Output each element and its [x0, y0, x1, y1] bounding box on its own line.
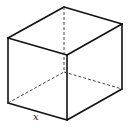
- edge-top-back-left: [8, 7, 64, 38]
- edge-top-back-right: [64, 7, 122, 24]
- edge-label-x: x: [33, 111, 39, 122]
- hidden-edge-back-left: [8, 72, 64, 103]
- visible-edges: [8, 7, 122, 120]
- hidden-edge-back-right: [64, 72, 122, 89]
- edge-top-front-left: [8, 38, 67, 55]
- edge-top-front-right: [67, 24, 122, 55]
- cube-diagram: x: [0, 0, 131, 128]
- edge-bottom-front-right: [67, 89, 122, 120]
